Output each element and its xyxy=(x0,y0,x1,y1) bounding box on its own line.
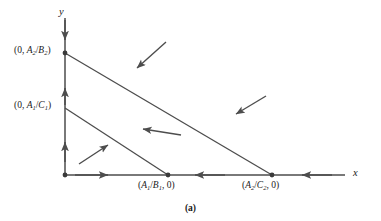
label-x-intercept-inner: (A1/B1, 0) xyxy=(138,181,175,191)
label-x-intercept-outer: (A2/C2, 0) xyxy=(242,181,279,191)
arrow-middle-left xyxy=(143,129,181,135)
arrow-upper-middle xyxy=(137,42,166,68)
label-y-intercept-inner: (0, A1/C1) xyxy=(14,101,51,111)
linear-programming-diagram xyxy=(0,0,381,221)
y-axis-label: y xyxy=(59,6,64,17)
arrow-right xyxy=(236,96,266,114)
constraint-lines-group xyxy=(65,53,272,175)
vertex-dot-origin xyxy=(63,173,68,178)
x-axis-label: x xyxy=(353,167,358,178)
interior-direction-arrows xyxy=(79,42,266,164)
figure-caption: (a) xyxy=(0,203,381,213)
vertex-dot-x-inner xyxy=(166,173,171,178)
vertex-dot-y-outer xyxy=(63,51,68,56)
arrow-lower-left xyxy=(79,145,108,164)
figure-container: y x (0, A2/B2) (0, A1/C1) (A1/B1, 0) (A2… xyxy=(0,0,381,221)
axis-direction-arrows xyxy=(65,20,332,175)
constraint-line-outer xyxy=(65,53,272,175)
constraint-line-inner xyxy=(65,108,168,175)
axes-group xyxy=(65,18,345,175)
vertex-dot-x-outer xyxy=(270,173,275,178)
label-y-intercept-outer: (0, A2/B2) xyxy=(14,46,51,56)
